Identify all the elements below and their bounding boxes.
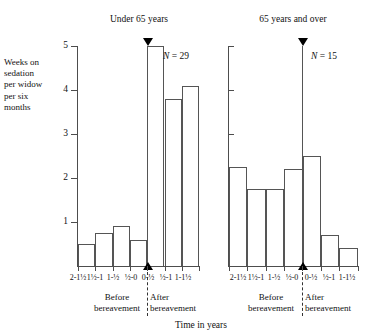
after-bereavement-caption-right: After bereavement (305, 292, 371, 314)
x-tick-label-r-half-1: ½-1 (320, 274, 338, 282)
x-tick-r-7 (358, 266, 359, 271)
x-tick-r-4 (302, 266, 303, 271)
bereavement-divider-right (302, 272, 303, 316)
bar-r-after-half-1 (321, 235, 339, 266)
bar-r-before-2-1half (229, 167, 247, 266)
x-tick-r-3 (284, 266, 285, 271)
bar-r-before-1-half (266, 189, 284, 266)
bereavement-marker-line-right (302, 46, 303, 267)
bar-r-before-1half-1 (247, 189, 265, 266)
plot-area-65-and-over (229, 46, 358, 266)
bar-r-after-1-1half (339, 248, 357, 266)
sample-size-value-right: 15 (327, 51, 337, 61)
x-tick-label-r-2-1half: 2-1½ (229, 274, 247, 282)
x-tick-r-0 (229, 266, 230, 271)
x-axis-title: Time in years (141, 320, 261, 330)
bereavement-marker-arrow-top-right (298, 38, 308, 46)
x-tick-label-r-1-1half: 1-1½ (338, 274, 356, 282)
x-tick-r-2 (266, 266, 267, 271)
bar-r-before-half-0 (284, 169, 302, 266)
sample-size-eq-right: = (317, 51, 327, 61)
x-tick-label-r-0-half: 0-½ (302, 274, 320, 282)
x-tick-label-r-half-0: ½-0 (283, 274, 301, 282)
before-bereavement-caption-right: Before bereavement (240, 292, 302, 314)
panel-65-and-over: N = 15 2-1½ 1½-1 1-½ ½-0 0-½ ½-1 1-1½ Be… (0, 0, 383, 336)
chart-figure: Under 65 years 65 years and over Weeks o… (0, 0, 383, 336)
x-tick-label-r-1-half: 1-½ (265, 274, 283, 282)
sample-size-label-65-and-over: N = 15 (311, 51, 337, 61)
bar-r-after-0-half (303, 156, 321, 266)
x-tick-r-1 (247, 266, 248, 271)
x-tick-r-5 (321, 266, 322, 271)
x-tick-r-6 (339, 266, 340, 271)
x-tick-label-r-1half-1: 1½-1 (247, 274, 265, 282)
